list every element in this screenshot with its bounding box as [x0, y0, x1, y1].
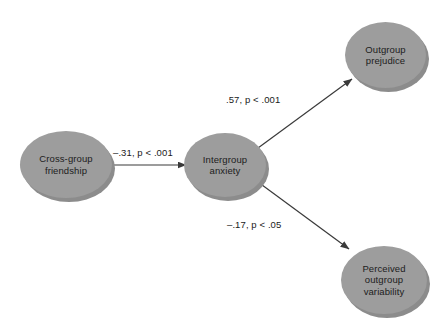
edge-label-anxiety-to-variability: –.17, p < .05 [227, 219, 281, 230]
edge-anxiety-to-prejudice [258, 79, 352, 148]
edge-label-anxiety-to-prejudice: .57, p < .001 [226, 94, 280, 105]
node-intergroup-anxiety[interactable]: Intergroup anxiety [184, 133, 266, 197]
node-outgroup-prejudice[interactable]: Outgroup prejudice [345, 22, 426, 88]
node-perceived-outgroup-variability[interactable]: Perceived outgroup variability [341, 246, 427, 314]
path-model-diagram: Cross-group friendship Intergroup anxiet… [0, 0, 447, 324]
edge-label-friendship-to-anxiety: –.31, p < .001 [113, 147, 173, 158]
node-label: Outgroup prejudice [361, 44, 409, 67]
node-label: Perceived outgroup variability [358, 263, 409, 298]
node-label: Cross-group friendship [35, 153, 96, 176]
node-label: Intergroup anxiety [199, 154, 251, 177]
node-cross-group-friendship[interactable]: Cross-group friendship [20, 131, 112, 198]
edge-anxiety-to-variability [258, 182, 349, 249]
